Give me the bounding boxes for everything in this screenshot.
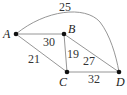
node-label-b: B <box>68 22 76 36</box>
node-label-c: C <box>59 75 68 89</box>
node-label-d: D <box>115 75 125 89</box>
weight-a-d: 25 <box>59 0 71 14</box>
node-a <box>14 32 19 37</box>
node-d <box>117 70 122 75</box>
edge-a-c <box>16 34 67 72</box>
node-b <box>62 32 67 37</box>
weight-c-d: 32 <box>88 72 100 86</box>
node-label-a: A <box>2 27 11 41</box>
weight-b-c: 19 <box>67 47 79 61</box>
weighted-graph-diagram: 30 21 19 27 32 25 A B C D <box>0 0 127 95</box>
weight-a-c: 21 <box>28 52 40 66</box>
edge-weights: 30 21 19 27 32 25 <box>28 0 100 86</box>
weight-a-b: 30 <box>43 35 55 49</box>
node-c <box>65 70 70 75</box>
weight-b-d: 27 <box>83 54 95 68</box>
